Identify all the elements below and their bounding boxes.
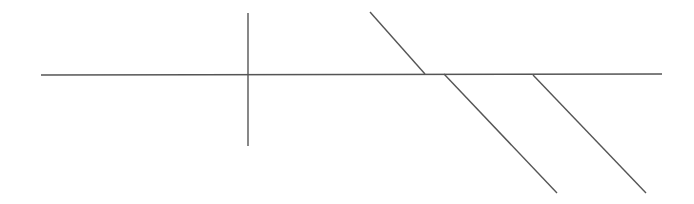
diagonal-line-upper	[370, 12, 425, 74]
horizontal-line	[41, 74, 662, 75]
diagonal-line-middle	[444, 74, 557, 193]
diagram-canvas	[0, 0, 694, 204]
line-diagram	[0, 0, 694, 204]
diagonal-line-right	[533, 75, 646, 193]
